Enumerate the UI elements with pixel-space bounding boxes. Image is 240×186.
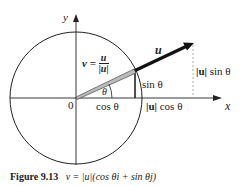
- origin-label: 0: [68, 100, 74, 111]
- abs-u-sin-theta-label: |u| sin θ: [196, 66, 231, 77]
- abs-u-text: |u|: [196, 65, 207, 77]
- x-axis-label: x: [225, 100, 230, 112]
- theta-label: θ: [102, 87, 107, 97]
- figure-caption: Figure 9.13 v = |u|(cos θi + sin θj): [10, 171, 156, 182]
- u-over-abs-u-fraction: u |u|: [99, 53, 109, 74]
- figure-number: Figure 9.13: [10, 171, 58, 182]
- cos-theta-text: cos θ: [157, 100, 182, 112]
- caption-formula: v = |u|(cos θi + sin θj): [66, 171, 156, 182]
- abs-u-text: |u|: [146, 100, 157, 112]
- unit-circle-diagram: [0, 0, 240, 186]
- fraction-denominator: |u|: [99, 64, 109, 74]
- y-axis-arrow-icon: [73, 14, 79, 22]
- unit-vector-v-definition: v = u |u|: [82, 53, 109, 74]
- sin-theta-text: sin θ: [207, 65, 231, 77]
- abs-u-cos-theta-label: |u| cos θ: [146, 101, 182, 112]
- cos-theta-label: cos θ: [96, 101, 119, 112]
- y-axis-label: y: [63, 12, 68, 23]
- sin-theta-label: sin θ: [142, 79, 163, 90]
- theta-arc: [109, 84, 112, 98]
- vector-u-label: u: [155, 44, 162, 56]
- x-axis-arrow-icon: [213, 95, 222, 101]
- v-equals-label: v =: [82, 57, 96, 69]
